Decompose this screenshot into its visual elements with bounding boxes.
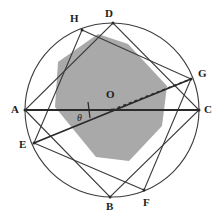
vertex-label-h: H [70, 13, 79, 24]
vertex-dot-b [109, 196, 112, 199]
center-label-o: O [106, 89, 115, 100]
vertex-dot-c [198, 109, 201, 112]
vertex-dot-e [33, 142, 36, 145]
geometry-figure: ABCDEFGH θ O [0, 0, 220, 221]
vertex-label-c: C [204, 104, 212, 115]
vertex-dot-d [112, 22, 115, 25]
vertex-dot-g [190, 78, 193, 81]
figure-canvas [0, 0, 220, 221]
vertex-label-b: B [106, 201, 113, 212]
vertex-label-a: A [11, 104, 19, 115]
vertex-label-e: E [19, 139, 26, 150]
center-point-o [110, 108, 113, 111]
vertex-dot-a [24, 109, 27, 112]
vertex-dot-h [81, 29, 84, 32]
angle-theta-label: θ [77, 113, 82, 123]
vertex-dot-f [143, 189, 146, 192]
vertex-label-f: F [143, 197, 150, 208]
vertex-label-g: G [198, 68, 207, 79]
vertex-label-d: D [105, 8, 113, 19]
